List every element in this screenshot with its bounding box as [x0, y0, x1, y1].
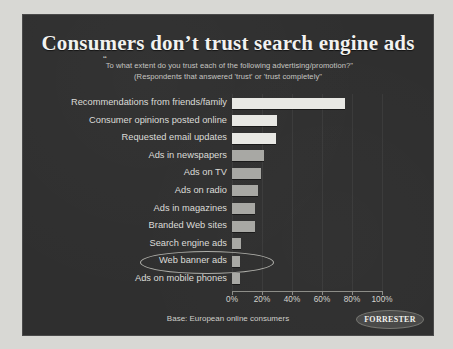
axis-tick-label: 60% — [314, 295, 330, 304]
bar-track — [232, 203, 382, 214]
category-label: Ads on TV — [34, 165, 234, 179]
chart-row: Recommendations from friends/family — [22, 94, 434, 112]
bar-track — [232, 98, 382, 109]
category-label: Requested email updates — [34, 130, 234, 144]
bar — [232, 256, 240, 267]
category-label: Search engine ads — [34, 236, 234, 250]
bar-track — [232, 273, 382, 284]
category-label: Branded Web sites — [34, 218, 234, 232]
bar — [232, 133, 276, 144]
chart-rows: Recommendations from friends/familyConsu… — [22, 94, 434, 288]
forrester-logo: FORRESTER — [356, 310, 424, 329]
page-title: Consumers don’t trust search engine ads — [22, 31, 434, 56]
axis-tick-label: 40% — [284, 295, 300, 304]
bar — [232, 168, 261, 179]
subtitle-line-1: “To what extent do you trust each of the… — [22, 60, 434, 72]
axis-tick-label: 80% — [344, 295, 360, 304]
chart-row: Ads in magazines — [22, 200, 434, 218]
chart-row: Consumer opinions posted online — [22, 112, 434, 130]
bar-track — [232, 133, 382, 144]
bar-track — [232, 115, 382, 126]
chart-row: Requested email updates — [22, 129, 434, 147]
category-label: Web banner ads — [34, 253, 234, 267]
chart-row: Ads on mobile phones — [22, 270, 434, 288]
x-axis-tick-labels: 0%20%40%60%80%100% — [232, 295, 383, 307]
bar — [232, 221, 255, 232]
category-label: Recommendations from friends/family — [34, 95, 234, 109]
bar — [232, 98, 345, 109]
bar-track — [232, 150, 382, 161]
bar-track — [232, 168, 382, 179]
category-label: Consumer opinions posted online — [34, 113, 234, 127]
axis-tick-label: 20% — [254, 295, 270, 304]
chart-row: Branded Web sites — [22, 217, 434, 235]
bar — [232, 203, 255, 214]
bar — [232, 150, 264, 161]
bar-track — [232, 221, 382, 232]
category-label: Ads on mobile phones — [34, 271, 234, 285]
bar-track — [232, 185, 382, 196]
axis-tick-label: 100% — [372, 295, 393, 304]
bar-track — [232, 256, 382, 267]
slide-frame: Consumers don’t trust search engine ads … — [22, 14, 434, 336]
bar — [232, 115, 277, 126]
category-label: Ads in newspapers — [34, 148, 234, 162]
chart-row: Ads on radio — [22, 182, 434, 200]
axis-tick-label: 0% — [226, 295, 238, 304]
subtitle-line-2: (Respondents that answered 'trust' or 't… — [22, 72, 434, 83]
chart-row: Search engine ads — [22, 235, 434, 253]
bar-chart: Recommendations from friends/familyConsu… — [22, 94, 434, 309]
category-label: Ads on radio — [34, 183, 234, 197]
chart-row: Ads in newspapers — [22, 147, 434, 165]
bar-track — [232, 238, 382, 249]
chart-subtitle: “To what extent do you trust each of the… — [22, 60, 434, 82]
bar — [232, 238, 241, 249]
forrester-logo-text: FORRESTER — [364, 315, 416, 324]
chart-row: Web banner ads — [22, 252, 434, 270]
subtitle-line-1-text: To what extent do you trust each of the … — [106, 61, 353, 70]
category-label: Ads in magazines — [34, 201, 234, 215]
bar — [232, 185, 258, 196]
bar — [232, 273, 240, 284]
chart-row: Ads on TV — [22, 164, 434, 182]
